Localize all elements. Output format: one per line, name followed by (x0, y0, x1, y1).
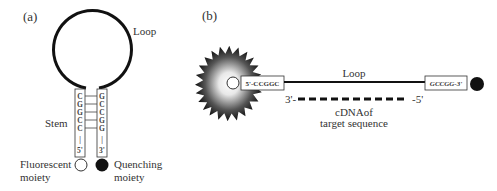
fluorescent-moiety-label: moiety (20, 171, 51, 183)
fluorescent-label: Fluorescent (20, 158, 71, 170)
stem-label: Stem (45, 117, 68, 129)
molecular-beacon-diagram: (a) Loop C G G C C | 5' G C C (0, 0, 497, 191)
quenching-moiety-label: moiety (114, 171, 145, 183)
quenching-label: Quenching (114, 158, 163, 170)
loop-label-b: Loop (342, 67, 366, 79)
quencher-moiety-icon (96, 159, 109, 172)
right-strand-bases: G C C G G | 3' (99, 92, 105, 155)
base-pair-rungs (85, 96, 97, 128)
left-strand-bases: C G G C C | 5' (77, 92, 83, 155)
panel-b: (b) 5'-CCGGC Loop GCCGG-3' 3'- -5' cDNAo… (195, 8, 484, 129)
panel-b-label: (b) (202, 8, 217, 23)
panel-a: (a) Loop C G G C C | 5' G C C (20, 9, 163, 183)
base: C (77, 124, 82, 133)
left-stem-sequence: 5'-CCGGC (246, 80, 280, 88)
fluorescent-moiety-icon (75, 159, 87, 171)
base: G (99, 124, 105, 133)
hairpin-loop (54, 11, 132, 88)
three-prime-end: 3' (99, 146, 105, 155)
target-sequence-label: target sequence (320, 117, 388, 129)
five-prime-end: 5' (77, 146, 83, 155)
cdna-three-prime: 3'- (285, 93, 296, 105)
panel-a-label: (a) (23, 9, 37, 24)
fluorescent-moiety-icon (227, 77, 239, 89)
cdna-five-prime: -5' (412, 93, 423, 105)
quencher-moiety-icon (470, 77, 484, 91)
right-stem-sequence: GCCGG-3' (430, 80, 462, 88)
loop-label-a: Loop (133, 25, 157, 37)
